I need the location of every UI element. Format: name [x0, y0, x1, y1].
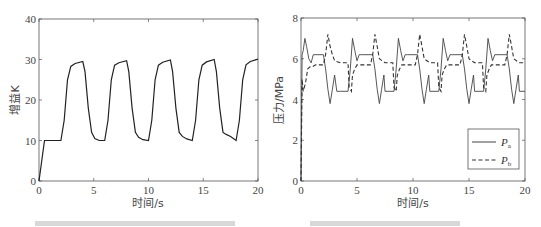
- caption-left-clipped: [35, 221, 235, 226]
- x-tick-label: 10: [408, 184, 420, 196]
- x-tick-label: 0: [298, 184, 304, 196]
- y-tick-label: 4: [293, 94, 299, 106]
- x-axis-label-right: 时间/s: [397, 197, 429, 210]
- chart-figure: 05101520010203040 时间/s 增益K 0510152002468…: [0, 0, 541, 227]
- y-tick-label: 2: [293, 134, 299, 146]
- y-tick-label: 0: [293, 175, 299, 187]
- x-tick-label: 20: [253, 184, 265, 196]
- x-tick-label: 15: [464, 184, 476, 196]
- gain-k-chart: 05101520010203040 时间/s 增益K: [8, 13, 264, 210]
- x-tick-label: 10: [143, 184, 155, 196]
- y-tick-label: 0: [31, 175, 37, 187]
- x-tick-label: 20: [520, 184, 532, 196]
- y-tick-label: 40: [25, 13, 37, 25]
- y-tick-label: 6: [293, 53, 299, 65]
- y-axis-label-right: 压力/MPa: [273, 76, 286, 124]
- caption-right-clipped: [310, 221, 460, 226]
- y-tick-label: 30: [25, 54, 37, 66]
- x-tick-label: 5: [91, 184, 97, 196]
- y-tick-label: 10: [25, 135, 37, 147]
- legend-box: [468, 129, 519, 169]
- legend: Pa Pb: [468, 129, 519, 169]
- x-axis-label-left: 时间/s: [132, 197, 164, 210]
- x-tick-label: 15: [198, 184, 210, 196]
- plot-area-left: [39, 19, 258, 181]
- y-tick-label: 20: [25, 94, 37, 106]
- pressure-chart: 0510152002468 时间/s 压力/MPa Pa Pb: [273, 12, 531, 210]
- y-tick-label: 8: [293, 12, 299, 24]
- x-tick-label: 5: [354, 184, 360, 196]
- y-axis-label-left: 增益K: [8, 85, 22, 115]
- x-tick-label: 0: [36, 184, 42, 196]
